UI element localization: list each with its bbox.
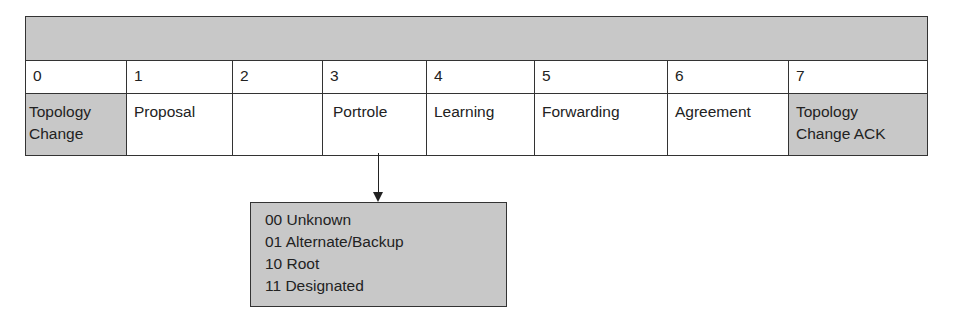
bit-7-label: Topology Change ACK (789, 94, 927, 155)
bit-label-row: Topology Change Proposal Portrole Learni… (26, 94, 927, 155)
bit-number-row: 0 1 2 3 4 5 6 7 (26, 61, 927, 94)
header-bar (26, 17, 927, 61)
arrow-line (378, 153, 379, 195)
bit-3-number: 3 (323, 61, 427, 94)
bit-0-label: Topology Change (26, 94, 127, 155)
bit-3-label: Portrole (323, 94, 427, 155)
bit-7-number: 7 (789, 61, 927, 94)
bit-2-number: 2 (233, 61, 323, 94)
bit-6-label: Agreement (668, 94, 789, 155)
portrole-value-00: 00 Unknown (265, 209, 506, 231)
portrole-values-box: 00 Unknown 01 Alternate/Backup 10 Root 1… (250, 202, 507, 307)
bit-2-label (233, 94, 323, 155)
portrole-value-11: 11 Designated (265, 275, 506, 297)
bit-4-label: Learning (427, 94, 535, 155)
portrole-value-10: 10 Root (265, 253, 506, 275)
bit-1-label: Proposal (127, 94, 233, 155)
bit-5-label: Forwarding (535, 94, 668, 155)
flags-field-table: 0 1 2 3 4 5 6 7 Topology Change Proposal… (25, 16, 928, 156)
bit-1-number: 1 (127, 61, 233, 94)
bit-4-number: 4 (427, 61, 535, 94)
arrow-down-icon (373, 192, 383, 202)
portrole-value-01: 01 Alternate/Backup (265, 231, 506, 253)
bit-6-number: 6 (668, 61, 789, 94)
bit-5-number: 5 (535, 61, 668, 94)
bit-0-number: 0 (26, 61, 127, 94)
